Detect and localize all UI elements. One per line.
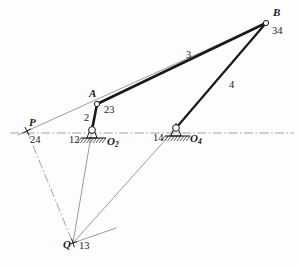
link-4-label: 4 xyxy=(229,80,234,91)
joint-a-pin xyxy=(94,101,99,106)
instant-center-label-14: 14 xyxy=(153,133,164,144)
linkage-diagram-canvas: ABPQO2O4233424121413234 xyxy=(0,0,301,268)
instant-center-label-23: 23 xyxy=(104,105,115,116)
ground-pivot-o4-hatch xyxy=(174,136,178,141)
ground-pivot-o4-hatch xyxy=(171,136,175,141)
ground-pivot-o2-hatch xyxy=(84,138,88,143)
line-o4-to-q xyxy=(73,128,176,243)
ground-pivot-o2-hatch xyxy=(96,138,100,143)
instant-center-label-13: 13 xyxy=(79,241,90,252)
point-label-p: P xyxy=(29,117,36,128)
point-label-b: B xyxy=(273,7,280,18)
pivot-label-o4: O4 xyxy=(190,133,202,144)
line-o2-to-q xyxy=(73,130,92,243)
ground-pivot-o4-hatch xyxy=(183,136,187,141)
ground-pivot-o4-hatch xyxy=(180,136,184,141)
ground-pivot-o4 xyxy=(161,123,190,141)
cross-mark-p-stroke-b xyxy=(23,129,31,133)
ground-pivot-o2-hatch xyxy=(99,138,103,143)
ground-pivot-o4-hatch xyxy=(177,136,181,141)
link-2-label: 2 xyxy=(84,113,89,124)
instant-center-label-12: 12 xyxy=(69,135,80,146)
ground-pivot-o2-hatch xyxy=(80,138,84,143)
link-3-label: 3 xyxy=(186,50,191,61)
joint-b-pin xyxy=(263,20,268,25)
link-bo4-rocker xyxy=(176,23,266,128)
pivot-label-o2: O2 xyxy=(107,136,119,147)
link-ab-coupler xyxy=(97,23,266,104)
ground-pivot-o4-hatch xyxy=(164,136,168,141)
ground-pivot-o4-circle xyxy=(173,125,180,132)
dash-dot-line-group xyxy=(10,131,294,243)
linkage-svg xyxy=(0,0,301,268)
point-label-a: A xyxy=(89,88,96,99)
ground-pivot-o2-hatch xyxy=(102,138,106,143)
ground-pivot-o2-hatch xyxy=(93,138,97,143)
ground-pivot-o2-circle xyxy=(89,127,96,134)
linkage-bar-group xyxy=(92,23,266,130)
point-label-q: Q xyxy=(63,239,71,250)
line-p-to-q-dashdot xyxy=(27,131,73,243)
instant-center-label-34: 34 xyxy=(272,26,283,37)
instant-center-label-24: 24 xyxy=(30,135,41,146)
